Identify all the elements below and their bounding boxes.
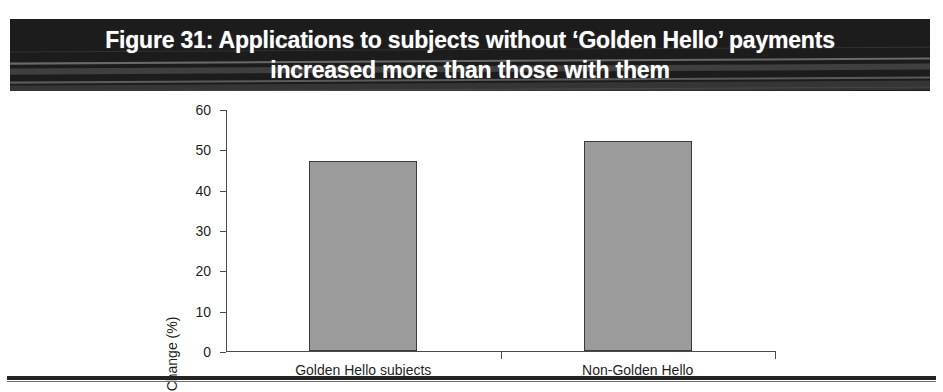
footer-rule-thin: [7, 381, 936, 382]
y-tick-label: 10: [195, 304, 211, 320]
y-axis-title: Change (%): [152, 190, 192, 392]
plot-area: 0102030405060 Golden Hello subjectsNon-G…: [226, 110, 775, 352]
footer-rule: [7, 376, 936, 380]
bar: [584, 141, 692, 351]
figure-title-line-2: increased more than those with them: [270, 55, 669, 85]
y-tick: 30: [220, 231, 226, 232]
y-tick: 20: [220, 271, 226, 272]
y-axis-line: [226, 110, 227, 352]
y-tick: 50: [220, 150, 226, 151]
y-tick: 40: [220, 191, 226, 192]
x-tick: [775, 351, 776, 359]
y-tick: 0: [220, 352, 226, 353]
y-tick: 10: [220, 312, 226, 313]
y-tick: 60: [220, 110, 226, 111]
y-tick-label: 60: [195, 102, 211, 118]
y-tick-label: 30: [195, 223, 211, 239]
figure-title-line-1: Figure 31: Applications to subjects with…: [105, 25, 835, 55]
y-tick-label: 50: [195, 142, 211, 158]
y-tick-label: 20: [195, 263, 211, 279]
bar: [309, 161, 417, 351]
bar-chart: Change (%) 0102030405060 Golden Hello su…: [0, 95, 943, 380]
y-tick-label: 40: [195, 183, 211, 199]
figure-title-banner: Figure 31: Applications to subjects with…: [10, 19, 930, 91]
figure-title: Figure 31: Applications to subjects with…: [10, 19, 930, 91]
y-tick-label: 0: [203, 344, 211, 360]
x-tick: [501, 351, 502, 359]
